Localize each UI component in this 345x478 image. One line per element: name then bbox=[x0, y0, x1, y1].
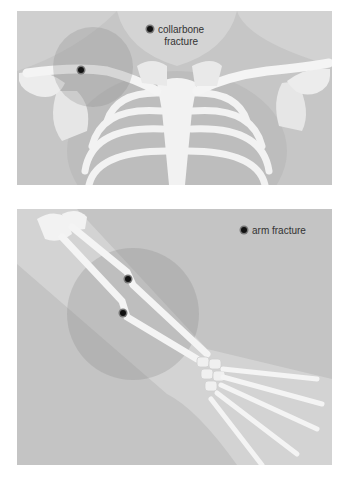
fracture-dot-icon bbox=[125, 270, 136, 288]
arm-label-text: arm fracture bbox=[252, 225, 306, 236]
arm-fracture-label: arm fracture bbox=[241, 225, 306, 237]
arm-skeleton-illustration bbox=[17, 209, 332, 465]
collarbone-panel: collarbone fracture bbox=[17, 11, 332, 185]
collarbone-fracture-label: collarbone fracture bbox=[147, 24, 204, 48]
collarbone-highlight-circle bbox=[53, 27, 133, 107]
fracture-dot-icon bbox=[147, 26, 153, 32]
collarbone-label-line2: fracture bbox=[147, 36, 204, 48]
arm-panel: arm fracture bbox=[17, 209, 332, 465]
fracture-dot-icon bbox=[78, 61, 89, 79]
fracture-dot-icon bbox=[120, 304, 131, 322]
collarbone-label-line1: collarbone bbox=[158, 24, 204, 35]
fracture-dot-icon bbox=[241, 227, 247, 233]
